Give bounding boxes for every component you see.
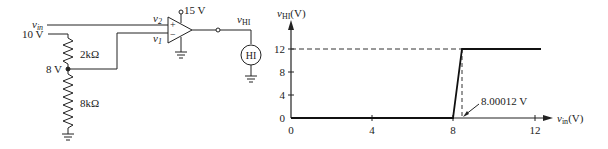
x-axis-label: vin(V) (557, 112, 584, 126)
y-tick-4: 4 (280, 89, 286, 101)
ticks (288, 49, 535, 121)
ground-icon (245, 76, 257, 82)
circuit-labels: vin 10 V 2kΩ 8kΩ 8 V 15 V v2 v1 + − vHI … (22, 4, 256, 109)
x-tick-0: 0 (288, 124, 294, 136)
node-voltage-label: 8 V (46, 63, 62, 75)
supply-terminal-icon (179, 10, 183, 14)
ground-icon (175, 52, 187, 58)
meter-wire (220, 30, 251, 44)
resistor-2k-icon (63, 34, 73, 69)
vhi-label: vHI (237, 13, 251, 27)
minus-sign: − (170, 29, 176, 40)
r-top-label: 2kΩ (80, 48, 99, 60)
circuit-schematic (47, 10, 261, 140)
threshold-annotation: 8.00012 V (481, 95, 527, 107)
output-terminal-icon (216, 28, 220, 32)
ref-voltage-label: 10 V (22, 28, 44, 40)
v1-label: v1 (153, 32, 162, 46)
chart-labels: vHI(V) 0 4 8 12 0 4 8 12 vin(V) 8.00012 … (274, 7, 584, 136)
v2-label: v2 (153, 12, 162, 26)
y-tick-0: 0 (280, 112, 286, 124)
ground-icon (62, 134, 74, 140)
figure: vin 10 V 2kΩ 8kΩ 8 V 15 V v2 v1 + − vHI … (0, 0, 608, 149)
annotation-arrowhead-icon (463, 111, 469, 117)
supply-label: 15 V (184, 4, 206, 16)
x-tick-8: 8 (450, 124, 456, 136)
y-tick-12: 12 (274, 43, 285, 55)
x-axis-arrow-icon (543, 115, 553, 121)
y-axis-label: vHI(V) (277, 7, 306, 21)
node-dot (66, 67, 70, 71)
y-tick-8: 8 (280, 66, 286, 78)
r-bottom-label: 8kΩ (80, 97, 99, 109)
x-tick-12: 12 (530, 124, 541, 136)
y-axis-arrow-icon (288, 20, 294, 30)
x-tick-4: 4 (369, 124, 375, 136)
transfer-curve (291, 49, 541, 118)
meter-label: HI (246, 50, 257, 61)
resistor-8k-icon (63, 69, 73, 134)
